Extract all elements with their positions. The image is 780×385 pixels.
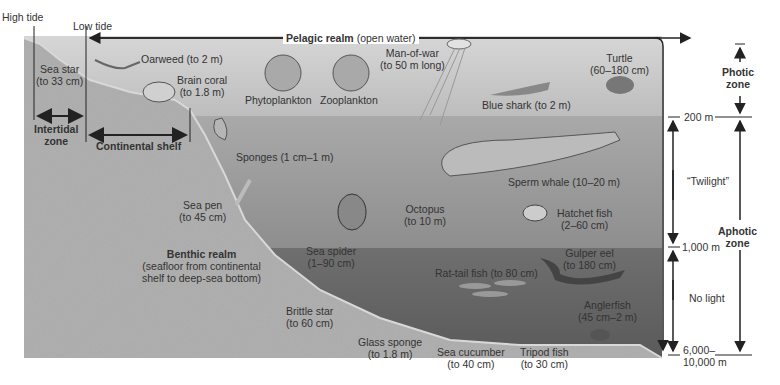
man-of-war — [447, 39, 471, 49]
continental-shelf-label: Continental shelf — [96, 140, 181, 152]
organism-turtle: Turtle(60–180 cm) — [590, 52, 649, 76]
depth-200m: 200 m — [682, 111, 715, 123]
anglerfish — [590, 329, 610, 341]
organism-brittle-star: Brittle star(to 60 cm) — [286, 305, 333, 329]
phytoplankton-circle — [265, 55, 301, 91]
photic-zone-label: Photiczone — [722, 66, 754, 90]
organism-gulper-eel: Gulper eel(to 180 cm) — [563, 247, 616, 271]
organism-sea-pen: Sea pen(to 45 cm) — [179, 199, 226, 223]
organism-sperm-whale: Sperm whale (10–20 m) — [508, 176, 620, 188]
organism-sea-star: Sea star(to 33 cm) — [36, 63, 83, 87]
organism-anglerfish: Anglerfish(45 cm–2 m) — [578, 299, 637, 323]
organism-oarweed: Oarweed (to 2 m) — [141, 53, 223, 65]
twilight-label: “Twilight” — [687, 175, 729, 187]
organism-sponges: Sponges (1 cm–1 m) — [236, 151, 333, 163]
intertidal-zone-label: Intertidalzone — [34, 123, 78, 147]
zooplankton-circle — [333, 55, 369, 91]
blue-shark — [490, 82, 550, 96]
organism-rat-tail-fish: Rat-tail fish (to 80 cm) — [435, 267, 538, 279]
organism-hatchet-fish: Hatchet fish(2–60 cm) — [557, 207, 612, 231]
organism-blue-shark: Blue shark (to 2 m) — [482, 99, 571, 111]
organism-sea-cucumber: Sea cucumber(to 40 cm) — [437, 346, 505, 370]
organism-sea-spider: Sea spider(1–90 cm) — [306, 245, 356, 269]
organism-tripod-fish: Tripod fish(to 30 cm) — [520, 346, 569, 370]
sponges — [214, 118, 227, 140]
sperm-whale — [442, 132, 620, 176]
organism-phytoplankton: Phytoplankton — [245, 94, 312, 106]
organism-zooplankton: Zooplankton — [320, 94, 378, 106]
rat-tail-fish — [459, 283, 491, 289]
benthic-realm-label: Benthic realm (seafloor from continental… — [142, 248, 261, 284]
hatchet-fish — [523, 205, 547, 221]
pelagic-realm-label: Pelagic realm (open water) — [283, 32, 419, 44]
aphotic-zone-label: Aphoticzone — [718, 225, 757, 249]
high-tide-label: High tide — [2, 11, 43, 23]
low-tide-label: Low tide — [73, 20, 112, 32]
octopus — [338, 194, 366, 230]
oarweed — [95, 60, 140, 68]
depth-1000m: 1,000 m — [682, 241, 720, 253]
organism-man-of-war: Man-of-war(to 50 m long) — [380, 47, 445, 71]
organism-octopus: Octopus(to 10 m) — [404, 203, 446, 227]
no-light-label: No light — [689, 292, 725, 304]
turtle — [606, 76, 634, 94]
brain-coral — [143, 82, 175, 102]
depth-max: 6,000–10,000 m — [683, 344, 727, 368]
sea-pen — [236, 180, 250, 205]
organism-brain-coral: Brain coral(to 1.8 m) — [177, 74, 227, 98]
organism-glass-sponge: Glass sponge(to 1.8 m) — [358, 336, 422, 360]
